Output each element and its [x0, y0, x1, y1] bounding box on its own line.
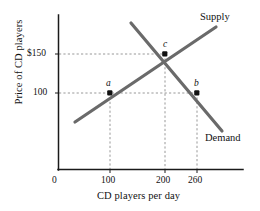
x-axis-title: CD players per day — [97, 191, 180, 202]
x-axis-ticks — [110, 170, 197, 173]
guide-lines — [59, 54, 197, 170]
axes — [58, 15, 243, 170]
marker-point-c — [162, 51, 167, 56]
x-tick-label-0: 0 — [52, 176, 57, 186]
x-tick-label-200: 200 — [156, 176, 170, 186]
supply-curve-label: Supply — [200, 12, 230, 23]
point-label-c: c — [163, 40, 167, 50]
y-tick-label-100: 100 — [33, 88, 47, 98]
y-axis-title: Price of CD players — [13, 20, 24, 105]
point-label-b: b — [194, 79, 199, 89]
y-axis-title-wrapper: Price of CD players — [8, 2, 26, 122]
y-tick-label-150: $150 — [27, 49, 46, 59]
x-tick-label-260: 260 — [188, 176, 202, 186]
demand-curve-label: Demand — [205, 133, 241, 144]
marker-point-a — [107, 90, 112, 95]
x-tick-label-100: 100 — [101, 176, 115, 186]
point-label-a: a — [106, 79, 111, 89]
supply-demand-plot — [0, 0, 260, 211]
chart-figure: Price of CD players $150 100 0 100 200 2… — [0, 0, 260, 211]
y-axis-ticks — [55, 54, 58, 93]
marker-point-b — [194, 90, 199, 95]
